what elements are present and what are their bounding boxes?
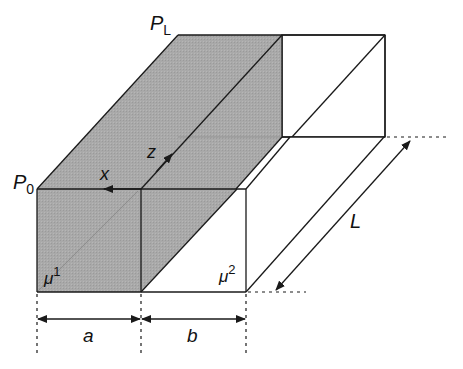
waveguide-diagram: P0 PL x z μ1 μ2 a b L (0, 0, 463, 369)
label-pl: PL (150, 12, 171, 38)
label-x-axis: x (99, 164, 110, 184)
label-width-b: b (187, 325, 198, 346)
back-face-region-2 (282, 35, 385, 137)
label-width-a: a (83, 325, 94, 346)
label-z-axis: z (146, 142, 156, 162)
label-length: L (350, 210, 361, 232)
label-p0: P0 (13, 171, 34, 197)
